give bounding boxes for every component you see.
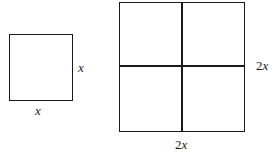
large-square-bottom-label: 2x [175,138,187,151]
small-square-bottom-label: x [35,104,41,117]
large-square-right-label: 2x [256,59,268,72]
small-square [9,34,73,101]
small-square-right-label: x [78,61,84,74]
large-square-vertical-divider [181,2,183,132]
small-square-bottom-label-text: x [35,103,41,118]
small-square-right-label-text: x [78,60,84,75]
large-square-horizontal-divider [119,65,245,67]
